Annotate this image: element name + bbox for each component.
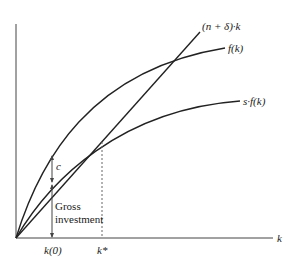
gross-investment-label-2: investment — [55, 213, 103, 225]
x-axis-label: k — [277, 232, 283, 244]
consumption-label: c — [56, 160, 61, 172]
production-curve — [16, 48, 225, 238]
solow-diagram: (n + δ)·k f(k) s·f(k) c Gross investment… — [0, 0, 297, 267]
arrowhead-icon — [50, 233, 54, 238]
arrowhead-icon — [50, 178, 54, 183]
gross-investment-label-1: Gross — [55, 200, 81, 212]
k0-tick-label: k(0) — [44, 244, 62, 257]
production-label: f(k) — [228, 42, 244, 55]
depreciation-line — [16, 32, 200, 238]
saving-label: s·f(k) — [243, 95, 266, 108]
depreciation-label: (n + δ)·k — [202, 20, 242, 33]
saving-curve — [16, 101, 240, 238]
kstar-tick-label: k* — [97, 244, 108, 256]
arrowhead-icon — [50, 184, 54, 189]
